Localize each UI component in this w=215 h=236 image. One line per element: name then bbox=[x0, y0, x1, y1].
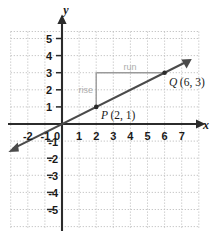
run-label: run bbox=[123, 62, 136, 72]
y-axis-label: y bbox=[61, 3, 69, 17]
x-tick-label--2: -2 bbox=[23, 130, 33, 142]
y-tick-label--1: -1 bbox=[48, 136, 58, 148]
x-tick-label-2: 2 bbox=[93, 130, 99, 142]
point-label-p-name: P bbox=[100, 109, 108, 121]
rise-label: rise bbox=[78, 85, 93, 95]
x-tick-label-3: 3 bbox=[110, 130, 116, 142]
x-tick-label-7: 7 bbox=[179, 130, 185, 142]
y-tick-label--5: -5 bbox=[48, 204, 58, 216]
y-tick-label--3: -3 bbox=[48, 170, 58, 182]
y-tick-label-2: 2 bbox=[46, 84, 52, 96]
x-axis-label: x bbox=[202, 118, 209, 132]
point-label-q: Q(6, 3) bbox=[169, 76, 205, 89]
x-tick-label-4: 4 bbox=[127, 130, 134, 142]
y-tick-label-5: 5 bbox=[46, 33, 52, 45]
y-tick-label-3: 3 bbox=[46, 67, 52, 79]
y-tick-label--2: -2 bbox=[48, 153, 58, 165]
point-label-p-coords: (2, 1) bbox=[111, 109, 136, 122]
y-tick-label-4: 4 bbox=[46, 50, 53, 62]
x-tick-label-5: 5 bbox=[144, 130, 150, 142]
point-label-q-name: Q bbox=[169, 76, 178, 88]
slope-diagram: -2 -1 0 1 2 3 4 5 6 7 1 2 3 4 5 -1 -2 -3… bbox=[0, 0, 215, 236]
x-tick-label-1: 1 bbox=[76, 130, 82, 142]
y-tick-label--4: -4 bbox=[48, 187, 59, 199]
y-tick-label-1: 1 bbox=[46, 101, 52, 113]
point-label-p: P(2, 1) bbox=[100, 109, 136, 122]
point-marker-q bbox=[162, 70, 167, 75]
x-tick-label-6: 6 bbox=[162, 130, 168, 142]
grid-lines bbox=[11, 32, 199, 230]
point-label-q-coords: (6, 3) bbox=[180, 76, 205, 89]
point-marker-p bbox=[94, 105, 99, 110]
